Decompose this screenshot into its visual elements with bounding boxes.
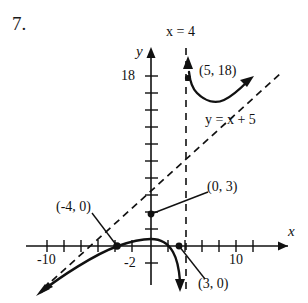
curve-up-arrow-icon (183, 56, 193, 69)
point-label-0-3: (0, 3) (207, 180, 237, 194)
vertical-asymptote-label: x = 4 (166, 25, 195, 39)
leader-line-0-3 (151, 192, 208, 214)
point-label-5-18: (5, 18) (199, 64, 236, 78)
point-label-neg4-0: (-4, 0) (56, 200, 91, 214)
curve-left-branch (36, 239, 185, 296)
y-axis-label: y (136, 44, 143, 59)
x-axis (26, 242, 288, 251)
point-label-3-0: (3, 0) (198, 277, 228, 291)
leader-line-3-0 (179, 246, 205, 279)
x-axis-arrow-icon (278, 242, 288, 251)
oblique-asymptote-label: y = x + 5 (205, 113, 256, 127)
x-tick-label-10: 10 (229, 253, 243, 267)
x-axis-label: x (288, 224, 295, 239)
leader-line-neg4-0 (92, 213, 117, 246)
point-5-18-dot (185, 75, 191, 81)
oblique-asymptote-line (38, 73, 281, 294)
y-axis-arrow-icon (147, 47, 156, 58)
y-axis (147, 47, 156, 285)
curve-down-arrow-icon (175, 279, 185, 292)
y-tick-label-18: 18 (121, 69, 135, 83)
math-figure: 7. (0, 0, 308, 303)
y-tick-label-neg2: -2 (124, 256, 136, 270)
x-tick-label-neg10: -10 (37, 253, 56, 267)
